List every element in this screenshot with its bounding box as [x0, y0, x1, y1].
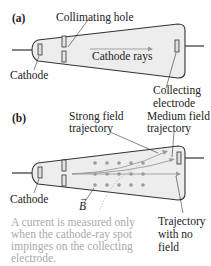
cathode-label-a: Cathode [10, 69, 48, 81]
cathode-rays-label: Cathode rays [92, 50, 152, 62]
note-line-2: when the cathode-ray spot [11, 228, 132, 240]
vector-arrow-icon: → [79, 192, 88, 204]
collimating-hole-label: Collimating hole [56, 11, 134, 23]
strong-field-label-1: Strong field [69, 110, 124, 122]
strong-field-label-2: trajectory [69, 122, 113, 134]
note-line-3: impinges on the collecting [11, 240, 133, 252]
collecting-label-1: Collecting [153, 84, 201, 96]
no-field-label-2: with no [158, 228, 193, 240]
note-line-4: electrode. [11, 252, 56, 264]
no-field-label-1: Trajectory [158, 215, 205, 227]
panel-a-label: (a) [12, 12, 25, 24]
note-line-1: A current is measured only [11, 216, 135, 228]
panel-b-label: (b) [12, 112, 26, 124]
cathode-label-b: Cathode [10, 193, 48, 205]
b-field-label: → B [79, 200, 86, 212]
medium-field-label-1: Medium field [147, 110, 210, 122]
medium-field-label-2: trajectory [147, 122, 191, 134]
collecting-label-2: electrode [153, 97, 195, 109]
no-field-label-3: field [158, 241, 179, 253]
